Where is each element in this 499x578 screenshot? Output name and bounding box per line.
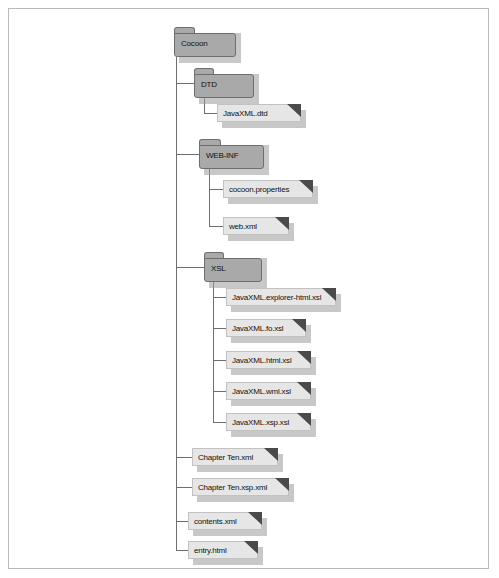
file-folded-corner-icon (322, 288, 336, 301)
tree-node-html-xsl[interactable]: JavaXML.html.xsl (226, 351, 311, 369)
file-folded-corner-icon (264, 448, 278, 461)
tree-node-label: Cocoon (181, 39, 207, 49)
file-folded-corner-icon (287, 104, 301, 117)
connector-contents-xml (176, 521, 188, 522)
tree-node-label: DTD (201, 80, 217, 90)
connector-webinf (176, 154, 199, 155)
file-icon: JavaXML.wml.xsl (226, 382, 311, 400)
folder-icon: WEB-INF (199, 139, 264, 169)
file-folded-corner-icon (275, 217, 289, 230)
file-folded-corner-icon (297, 382, 311, 395)
tree-node-label: contents.xml (194, 517, 237, 527)
tree-node-xsp-xsl[interactable]: JavaXML.xsp.xsl (226, 413, 311, 431)
tree-node-cocoon-properties[interactable]: cocoon.properties (223, 180, 313, 198)
tree-node-label: web.xml (229, 222, 257, 232)
tree-node-dtd[interactable]: DTD (194, 68, 254, 98)
tree-node-cocoon[interactable]: Cocoon (174, 27, 236, 57)
file-icon: JavaXML.dtd (217, 104, 301, 122)
file-icon: entry.html (188, 541, 258, 559)
tree-node-web-xml[interactable]: web.xml (223, 217, 289, 235)
file-icon: JavaXML.html.xsl (226, 351, 311, 369)
trunk-line-xsl (213, 282, 214, 422)
connector-xsp-xsl (213, 422, 226, 423)
tree-node-chapter-ten-xsp-xml[interactable]: Chapter Ten.xsp.xml (192, 478, 289, 496)
file-icon: Chapter Ten.xsp.xml (192, 478, 289, 496)
tree-node-label: entry.html (194, 546, 227, 556)
tree-node-label: JavaXML.dtd (223, 109, 268, 119)
tree-node-label: Chapter Ten.xml (198, 453, 253, 463)
connector-cocoon-properties (209, 189, 223, 190)
connector-javaxml-dtd (204, 113, 217, 114)
tree-node-label: XSL (211, 264, 226, 274)
trunk-line-root (176, 57, 177, 550)
file-icon: contents.xml (188, 512, 262, 530)
tree-node-label: JavaXML.fo.xsl (232, 324, 283, 334)
file-folded-corner-icon (275, 478, 289, 491)
file-folded-corner-icon (292, 319, 306, 332)
tree-node-xsl[interactable]: XSL (204, 252, 262, 282)
tree-node-label: JavaXML.html.xsl (232, 356, 291, 366)
file-icon: JavaXML.fo.xsl (226, 319, 306, 337)
tree-node-label: JavaXML.explorer-html.xsl (232, 293, 321, 303)
tree-node-chapter-ten-xml[interactable]: Chapter Ten.xml (192, 448, 278, 466)
connector-dtd (176, 83, 194, 84)
connector-web-xml (209, 226, 223, 227)
tree-node-javaxml-dtd[interactable]: JavaXML.dtd (217, 104, 301, 122)
tree-node-label: Chapter Ten.xsp.xml (198, 483, 267, 493)
connector-entry-html (176, 550, 188, 551)
file-icon: cocoon.properties (223, 180, 313, 198)
tree-node-label: JavaXML.xsp.xsl (232, 418, 289, 428)
file-icon: Chapter Ten.xml (192, 448, 278, 466)
file-icon: JavaXML.xsp.xsl (226, 413, 311, 431)
tree-node-fo-xsl[interactable]: JavaXML.fo.xsl (226, 319, 306, 337)
tree-node-label: WEB-INF (206, 151, 238, 161)
connector-xsl (176, 267, 204, 268)
tree-node-contents-xml[interactable]: contents.xml (188, 512, 262, 530)
directory-tree-diagram: Cocoon DTD JavaXML.dtd (9, 9, 490, 570)
folder-icon: DTD (194, 68, 254, 98)
file-folded-corner-icon (297, 351, 311, 364)
folder-icon: Cocoon (174, 27, 236, 57)
file-folded-corner-icon (244, 541, 258, 554)
connector-chapterten-xml (176, 457, 192, 458)
figure-frame: Cocoon DTD JavaXML.dtd (8, 8, 489, 569)
tree-node-label: cocoon.properties (229, 185, 289, 195)
tree-node-entry-html[interactable]: entry.html (188, 541, 258, 559)
file-icon: web.xml (223, 217, 289, 235)
folder-icon: XSL (204, 252, 262, 282)
file-icon: JavaXML.explorer-html.xsl (226, 288, 336, 306)
tree-node-webinf[interactable]: WEB-INF (199, 139, 264, 169)
tree-node-explorer-html-xsl[interactable]: JavaXML.explorer-html.xsl (226, 288, 336, 306)
file-folded-corner-icon (248, 512, 262, 525)
connector-explorer-html-xsl (213, 297, 226, 298)
trunk-line-webinf (209, 169, 210, 226)
file-folded-corner-icon (299, 180, 313, 193)
connector-wml-xsl (213, 391, 226, 392)
connector-fo-xsl (213, 328, 226, 329)
tree-node-label: JavaXML.wml.xsl (232, 387, 291, 397)
connector-html-xsl (213, 360, 226, 361)
tree-node-wml-xsl[interactable]: JavaXML.wml.xsl (226, 382, 311, 400)
connector-chapterten-xsp-xml (176, 487, 192, 488)
file-folded-corner-icon (297, 413, 311, 426)
